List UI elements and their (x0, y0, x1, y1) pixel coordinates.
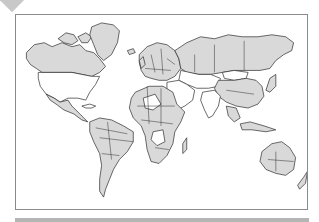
russia-region (175, 35, 294, 75)
southeast-asia-region (226, 106, 275, 132)
caribbean-islands (82, 104, 96, 108)
new-zealand-region (298, 171, 307, 189)
world-map (16, 15, 307, 209)
india-region (201, 90, 221, 118)
europe-region (139, 43, 181, 81)
bottom-bar (15, 218, 309, 222)
map-frame (15, 14, 308, 210)
decorative-diamond (0, 0, 26, 12)
usa-region (38, 72, 99, 102)
australia-region (260, 142, 296, 176)
madagascar-region (183, 138, 187, 154)
china-region (214, 78, 263, 108)
canada-region (26, 43, 105, 77)
japan-region (266, 74, 276, 92)
